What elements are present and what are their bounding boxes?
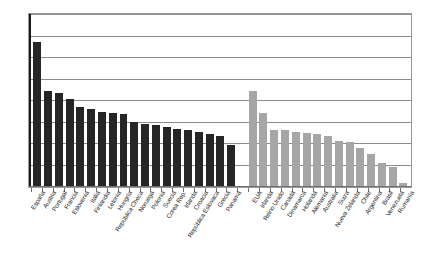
bar-slot xyxy=(150,14,161,186)
bar-slot xyxy=(333,14,344,186)
bar xyxy=(367,154,375,186)
bar xyxy=(270,130,278,186)
bar-slot xyxy=(64,14,75,186)
bar-slot xyxy=(43,14,54,186)
bar xyxy=(163,127,171,186)
bar-slot xyxy=(377,14,388,186)
bar-slot xyxy=(258,14,269,186)
plot-area: 0510152025303540 xyxy=(28,13,412,188)
bar-slot xyxy=(387,14,398,186)
bar-slot xyxy=(269,14,280,186)
bar-slot xyxy=(129,14,140,186)
bar xyxy=(324,136,332,186)
bar xyxy=(173,129,181,186)
bar-slot xyxy=(226,14,237,186)
bar-slot xyxy=(183,14,194,186)
bar xyxy=(313,134,321,186)
bar xyxy=(152,125,160,186)
bar-slot xyxy=(193,14,204,186)
bar xyxy=(389,167,397,186)
bar xyxy=(259,113,267,186)
bar xyxy=(109,113,117,186)
bar xyxy=(120,114,128,186)
bar xyxy=(98,112,106,186)
bar xyxy=(292,132,300,186)
bar xyxy=(195,132,203,186)
bar xyxy=(356,148,364,186)
bar xyxy=(44,91,52,186)
bar xyxy=(130,122,138,186)
bar xyxy=(335,141,343,186)
bar-slot xyxy=(247,14,258,186)
bar-slot xyxy=(215,14,226,186)
bar xyxy=(55,93,63,186)
bar xyxy=(141,124,149,186)
bar-slot xyxy=(161,14,172,186)
bar-slot xyxy=(107,14,118,186)
bar-slot xyxy=(204,14,215,186)
bar xyxy=(227,145,235,186)
bar xyxy=(378,163,386,186)
bar-slot xyxy=(355,14,366,186)
bar-slot xyxy=(140,14,151,186)
bar-slot xyxy=(75,14,86,186)
bar-slot xyxy=(97,14,108,186)
bar-slot xyxy=(301,14,312,186)
bar xyxy=(76,107,84,186)
bars-group xyxy=(32,14,409,186)
bar xyxy=(33,42,41,186)
bar-slot xyxy=(344,14,355,186)
bar-slot xyxy=(172,14,183,186)
bar xyxy=(281,130,289,186)
bar-slot xyxy=(54,14,65,186)
bar-slot xyxy=(237,14,248,186)
bar xyxy=(346,142,354,186)
y-axis-line xyxy=(29,14,31,187)
bar-chart: 0510152025303540 EspañaAustriaPortugalFr… xyxy=(0,0,422,256)
bar xyxy=(206,134,214,186)
bar xyxy=(87,109,95,186)
x-axis-line xyxy=(29,186,411,187)
bar-slot xyxy=(280,14,291,186)
bar xyxy=(303,133,311,186)
bar-slot xyxy=(86,14,97,186)
bar xyxy=(249,91,257,186)
bar-slot xyxy=(290,14,301,186)
bar-slot xyxy=(398,14,409,186)
bar-slot xyxy=(366,14,377,186)
bar xyxy=(184,130,192,186)
bar-slot xyxy=(118,14,129,186)
bar-slot xyxy=(312,14,323,186)
x-axis-category-labels: EspañaAustriaPortugalFranciaEsloveniaIta… xyxy=(31,190,411,256)
bar-slot xyxy=(323,14,334,186)
bar-slot xyxy=(32,14,43,186)
bar xyxy=(66,99,74,186)
bar xyxy=(216,136,224,186)
